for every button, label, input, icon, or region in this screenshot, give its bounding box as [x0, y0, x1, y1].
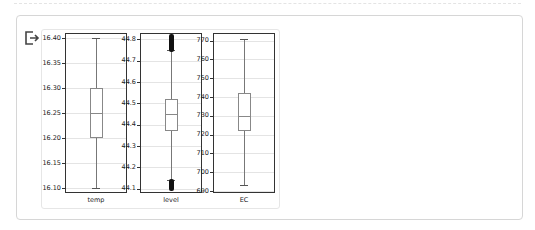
y-tick-label: 16.15 [42, 160, 61, 167]
x-axis-label: level [140, 196, 202, 204]
x-axis-label: EC [213, 196, 275, 204]
y-tick-label: 16.30 [42, 85, 61, 92]
boxplot-level [140, 33, 202, 193]
boxplot-ec [213, 33, 275, 193]
boxplot-temp [65, 33, 127, 193]
y-tick-label: 44.4 [122, 121, 136, 128]
y-tick-label: 740 [197, 94, 209, 101]
y-tick-label: 44.8 [122, 36, 136, 43]
y-tick-label: 16.10 [42, 185, 61, 192]
median-line [238, 116, 251, 117]
y-tick-label: 16.25 [42, 110, 61, 117]
y-tick-mark [137, 61, 140, 62]
y-tick-label: 730 [197, 112, 209, 119]
y-tick-mark [137, 125, 140, 126]
outlier-points [169, 179, 174, 191]
whisker-cap [92, 188, 100, 189]
y-tick-label: 16.35 [42, 60, 61, 67]
y-tick-label: 44.6 [122, 79, 136, 86]
y-tick-mark [62, 38, 65, 39]
y-tick-label: 760 [197, 56, 209, 63]
y-tick-mark [137, 82, 140, 83]
x-axis-label: temp [65, 196, 127, 204]
y-tick-mark [137, 189, 140, 190]
cell-divider [14, 3, 521, 4]
y-tick-label: 750 [197, 75, 209, 82]
y-tick-mark [210, 41, 213, 42]
output-arrow-icon[interactable] [24, 30, 40, 46]
y-tick-mark [210, 59, 213, 60]
y-tick-mark [62, 63, 65, 64]
y-tick-mark [137, 103, 140, 104]
y-tick-label: 690 [197, 188, 209, 195]
y-tick-label: 16.40 [42, 35, 61, 42]
y-tick-label: 16.20 [42, 135, 61, 142]
y-tick-mark [210, 153, 213, 154]
y-tick-label: 44.1 [122, 185, 136, 192]
y-tick-mark [137, 167, 140, 168]
y-tick-mark [210, 191, 213, 192]
outlier-points [169, 34, 174, 52]
y-tick-mark [62, 88, 65, 89]
gridline [214, 191, 274, 192]
whisker-cap [240, 39, 248, 40]
y-tick-mark [210, 116, 213, 117]
y-tick-label: 700 [197, 169, 209, 176]
y-tick-label: 44.3 [122, 143, 136, 150]
median-line [90, 113, 103, 114]
y-tick-label: 44.7 [122, 57, 136, 64]
y-tick-mark [210, 78, 213, 79]
median-line [165, 114, 178, 115]
y-tick-mark [62, 163, 65, 164]
y-tick-mark [62, 188, 65, 189]
y-tick-label: 44.2 [122, 164, 136, 171]
whisker-cap [240, 185, 248, 186]
iqr-box [238, 93, 251, 131]
y-tick-mark [210, 172, 213, 173]
y-tick-mark [210, 97, 213, 98]
y-tick-label: 770 [197, 37, 209, 44]
y-tick-mark [210, 135, 213, 136]
y-tick-mark [137, 39, 140, 40]
y-tick-mark [137, 146, 140, 147]
y-tick-label: 44.5 [122, 100, 136, 107]
iqr-box [165, 99, 178, 131]
whisker-cap [92, 38, 100, 39]
y-tick-mark [62, 113, 65, 114]
y-tick-label: 720 [197, 131, 209, 138]
y-tick-mark [62, 138, 65, 139]
y-tick-label: 710 [197, 150, 209, 157]
